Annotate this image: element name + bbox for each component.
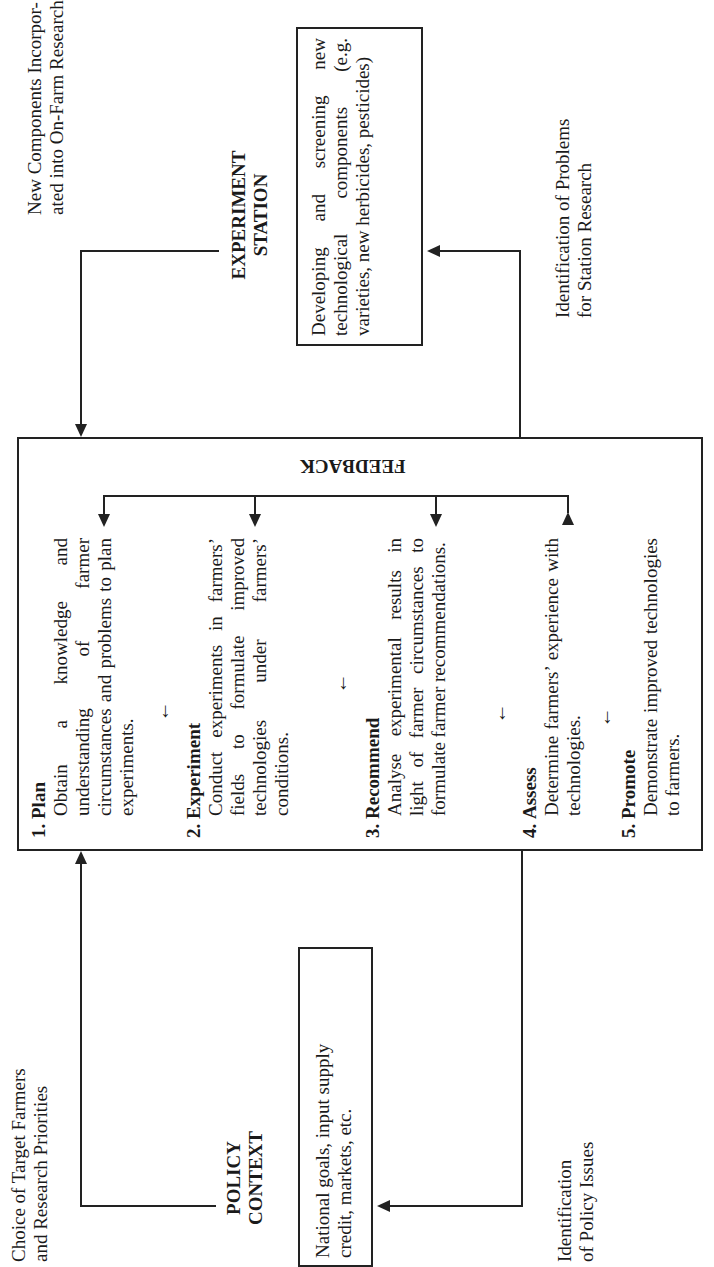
step-number: 1. bbox=[28, 824, 49, 838]
new-components-label-line1: New Components Incorpor- bbox=[24, 0, 46, 215]
step-plan: 1. Plan Obtain a knowledge and understan… bbox=[28, 538, 138, 838]
policy-issues-line2: of Policy Issues bbox=[576, 1142, 598, 1262]
step-arrow: → bbox=[335, 674, 358, 694]
feedback-drop-1 bbox=[103, 495, 105, 515]
step-title: Recommend bbox=[362, 718, 383, 819]
feedback-drop-2 bbox=[254, 495, 256, 515]
connector-top-right-horizontal bbox=[440, 250, 521, 252]
arrow-down-icon bbox=[98, 514, 110, 527]
identification-problems-line2: for Station Research bbox=[574, 119, 596, 318]
connector-bottom-right-vertical bbox=[521, 850, 523, 1207]
identification-policy-issues-label: Identification of Policy Issues bbox=[554, 1142, 598, 1262]
step-number: 2. bbox=[183, 824, 204, 838]
step-recommend: 3. Recommend Analyse experimental result… bbox=[362, 538, 450, 838]
step-assess: 4. Assess Determine farmers’ experience … bbox=[519, 538, 585, 838]
step-title: Experiment bbox=[183, 723, 204, 819]
step-description: Demonstrate improved technologies to far… bbox=[640, 538, 684, 838]
step-number: 4. bbox=[519, 824, 540, 838]
step-promote: 5. Promote Demonstrate improved technolo… bbox=[618, 538, 684, 838]
policy-context-title-line1: POLICY bbox=[223, 1098, 245, 1258]
feedback-drop-3 bbox=[435, 495, 437, 515]
feedback-rise-4 bbox=[567, 495, 569, 513]
policy-context-box-line2: credit, markets, etc. bbox=[334, 1044, 356, 1258]
connector-top-left-horizontal bbox=[80, 250, 219, 252]
connector-bottom-left-vertical bbox=[80, 863, 82, 1206]
arrow-down-icon bbox=[249, 514, 261, 527]
step-arrow: → bbox=[494, 704, 517, 724]
policy-context-box-line1: National goals, input supply bbox=[312, 1044, 334, 1258]
policy-issues-line1: Identification bbox=[554, 1142, 576, 1262]
arrow-left-icon bbox=[377, 1200, 390, 1212]
step-number: 5. bbox=[618, 824, 639, 838]
arrow-up-icon bbox=[562, 512, 574, 525]
step-experiment: 2. Experiment Conduct experiments in far… bbox=[183, 538, 293, 838]
policy-context-title: POLICY CONTEXT bbox=[223, 1098, 267, 1258]
experiment-station-description: Developing and screening new technologic… bbox=[308, 36, 374, 336]
identification-problems-label: Identification of Problems for Station R… bbox=[552, 119, 596, 318]
choice-label-line1: Choice of Target Farmers bbox=[8, 1068, 30, 1262]
new-components-label: New Components Incorpor- ated into On-Fa… bbox=[24, 0, 68, 215]
connector-bottom-right-horizontal bbox=[390, 1205, 523, 1207]
step-title: Plan bbox=[28, 782, 49, 819]
policy-context-title-line2: CONTEXT bbox=[245, 1098, 267, 1258]
arrow-down-icon bbox=[75, 424, 87, 437]
connector-top-right-vertical bbox=[519, 250, 521, 438]
identification-problems-line1: Identification of Problems bbox=[552, 119, 574, 318]
experiment-station-title-line1: EXPERIMENT bbox=[228, 90, 250, 340]
step-description: Determine farmers’ experience with techn… bbox=[541, 538, 585, 838]
experiment-station-title-line2: STATION bbox=[250, 90, 272, 340]
step-description: Obtain a knowledge and understanding of … bbox=[50, 538, 138, 838]
experiment-station-box-text: Developing and screening new technologic… bbox=[308, 38, 374, 336]
choice-of-target-farmers-label: Choice of Target Farmers and Research Pr… bbox=[8, 1068, 52, 1262]
choice-label-line2: and Research Priorities bbox=[30, 1068, 52, 1262]
step-title: Assess bbox=[519, 767, 540, 819]
step-description: Analyse experimental results in light of… bbox=[384, 538, 450, 838]
connector-bottom-left-horizontal bbox=[80, 1205, 216, 1207]
connector-top-left-vertical bbox=[80, 250, 82, 425]
arrow-up-icon bbox=[75, 851, 87, 864]
step-title: Promote bbox=[618, 750, 639, 819]
arrow-left-icon bbox=[427, 245, 440, 257]
feedback-bracket-line bbox=[103, 495, 569, 497]
step-arrow: → bbox=[157, 702, 180, 722]
feedback-label: FEEDBACK bbox=[300, 455, 406, 477]
policy-context-description: National goals, input supply credit, mar… bbox=[312, 1044, 356, 1258]
step-description: Conduct experiments in farmers’ fields t… bbox=[205, 538, 293, 838]
arrow-down-icon bbox=[430, 514, 442, 527]
step-number: 3. bbox=[362, 824, 383, 838]
experiment-station-title: EXPERIMENT STATION bbox=[228, 90, 272, 340]
new-components-label-line2: ated into On-Farm Research bbox=[46, 0, 68, 215]
